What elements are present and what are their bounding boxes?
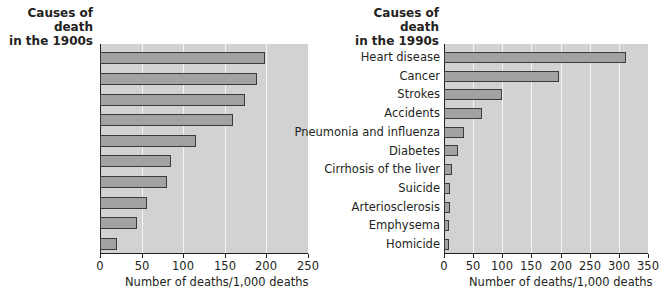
chart-title-1990s: Causes of death in the 1990s bbox=[340, 6, 439, 48]
gridline bbox=[619, 44, 620, 254]
bar bbox=[444, 127, 464, 138]
bar bbox=[444, 52, 626, 63]
gridline bbox=[590, 44, 591, 254]
x-tick-mark bbox=[590, 254, 591, 258]
category-label: Accidents bbox=[384, 107, 440, 120]
category-label: Arteriosclerosis bbox=[352, 201, 440, 214]
chart-1990s: Causes of death in the 1990s Heart disea… bbox=[0, 0, 664, 297]
category-label: Homicide bbox=[386, 238, 440, 251]
category-label: Heart disease bbox=[361, 51, 440, 64]
bar bbox=[444, 89, 502, 100]
x-tick-mark bbox=[502, 254, 503, 258]
bar bbox=[444, 108, 482, 119]
category-label: Emphysema bbox=[369, 219, 440, 232]
category-label: Strokes bbox=[397, 88, 440, 101]
bar bbox=[444, 183, 450, 194]
x-tick-mark bbox=[531, 254, 532, 258]
bar bbox=[444, 239, 449, 250]
x-tick-mark bbox=[619, 254, 620, 258]
bar bbox=[444, 202, 450, 213]
x-axis-label-1990s: Number of deaths/1,000 deaths bbox=[469, 275, 652, 289]
x-tick-mark bbox=[473, 254, 474, 258]
title-line: in the 1990s bbox=[340, 34, 439, 48]
bar bbox=[444, 220, 449, 231]
bar bbox=[444, 71, 559, 82]
category-label: Diabetes bbox=[389, 145, 440, 158]
bar bbox=[444, 164, 452, 175]
category-label: Cancer bbox=[400, 70, 441, 83]
bar bbox=[444, 145, 458, 156]
title-line: Causes of death bbox=[340, 6, 439, 34]
plot-area-1990s bbox=[444, 44, 648, 254]
gridline bbox=[561, 44, 562, 254]
category-label: Suicide bbox=[398, 182, 440, 195]
x-axis-line bbox=[444, 253, 648, 254]
x-tick-mark bbox=[444, 254, 445, 258]
x-tick-mark bbox=[648, 254, 649, 258]
x-tick-label: 350 bbox=[628, 259, 664, 273]
category-label: Pneumonia and influenza bbox=[294, 126, 440, 139]
x-tick-mark bbox=[561, 254, 562, 258]
category-label: Cirrhosis of the liver bbox=[324, 163, 440, 176]
